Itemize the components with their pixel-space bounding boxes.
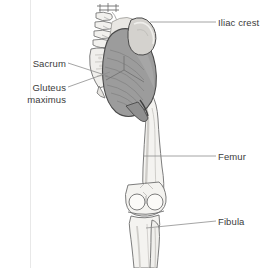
iliac-crest-bone [128,18,156,55]
label-sacrum: Sacrum [8,58,66,70]
anatomy-figure: Iliac crest Sacrum Gluteusmaximus Femur … [0,0,274,268]
label-gluteus-line1: Gluteus [33,82,66,93]
label-gluteus-line2: maximus [27,94,66,105]
label-iliac-crest: Iliac crest [218,17,259,29]
label-gluteus-maximus: Gluteusmaximus [2,82,66,105]
anatomy-illustration [0,0,274,268]
skeleton-group [90,3,166,268]
label-fibula: Fibula [218,216,244,228]
label-femur: Femur [218,151,246,163]
